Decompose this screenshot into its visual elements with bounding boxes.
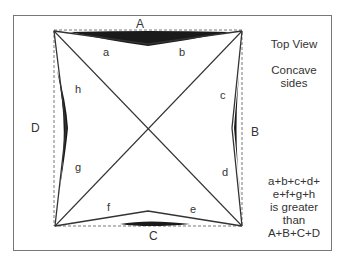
note-title: Top View [258,38,330,51]
segment-label-d: d [222,167,228,178]
segment-label-h: h [75,84,81,95]
statement-line-4: than [258,214,330,227]
statement-line-2: e+f+g+h [258,188,330,201]
segment-label-e: e [190,204,196,215]
side-label-c-upper: C [149,230,158,242]
side-right [232,31,242,226]
bottom-shading [120,222,190,227]
sides-label: sides [258,77,330,90]
statement-line-1: a+b+c+d+ [258,175,330,188]
note-statement: a+b+c+d+ e+f+g+h is greater than A+B+C+D [258,175,330,240]
statement-line-3: is greater [258,201,330,214]
segment-label-f: f [107,202,110,213]
segment-label-c: c [220,90,226,101]
side-label-b-upper: B [251,126,259,138]
statement-line-5: A+B+C+D [258,227,330,240]
side-label-a-upper: A [136,18,144,30]
concave-label: Concave [258,64,330,77]
left-shading [57,70,68,200]
top-view-label: Top View [258,38,330,51]
side-label-d-upper: D [31,122,40,134]
segment-label-g: g [75,162,81,173]
segment-label-b: b [179,47,185,58]
segment-label-a: a [103,47,109,58]
note-subtitle: Concave sides [258,64,330,90]
